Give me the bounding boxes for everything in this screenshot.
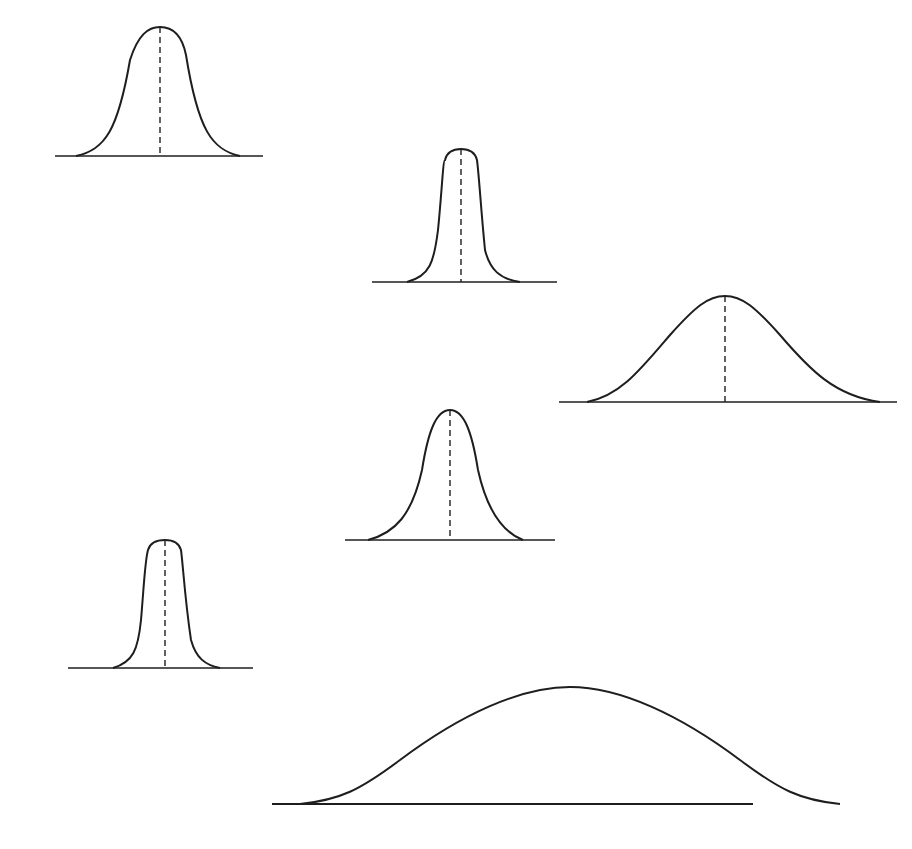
curves-layer [0,0,912,849]
total-curve [272,687,840,804]
panel-2-curve [372,149,557,282]
panel-1-curve [55,27,263,156]
panel-3-curve [559,296,897,402]
panel-5-curve [68,540,253,668]
panel-4-curve [345,410,555,540]
